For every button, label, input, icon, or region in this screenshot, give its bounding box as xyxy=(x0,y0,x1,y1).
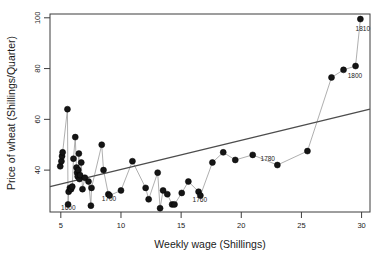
series-data-points xyxy=(57,16,363,211)
data-point-marker xyxy=(143,185,149,191)
y-tick-label: 40 xyxy=(34,166,43,174)
data-point-marker xyxy=(79,186,85,192)
data-point-marker xyxy=(232,157,238,163)
data-point-marker xyxy=(250,152,256,158)
y-axis-title: Price of wheat (Shillings/Quarter) xyxy=(5,36,17,190)
data-point-label: 1810 xyxy=(356,25,371,32)
data-point-marker xyxy=(60,149,66,155)
data-point-marker xyxy=(185,179,191,185)
trend-line xyxy=(50,109,370,186)
data-point-marker xyxy=(76,151,82,157)
y-tick-label: 60 xyxy=(34,115,43,123)
data-point-marker xyxy=(99,142,105,148)
trend-line-segment xyxy=(50,109,370,186)
x-axis-title: Weekly wage (Shillings) xyxy=(154,238,265,250)
data-point-label: 1800 xyxy=(348,72,363,79)
data-point-label: 1700 xyxy=(102,195,117,202)
plot-border xyxy=(50,14,370,212)
wheat-price-vs-wage-chart: 406080100 51015202530 160017001760178018… xyxy=(0,0,385,259)
x-tick-label: 10 xyxy=(117,221,125,230)
data-point-label: 1780 xyxy=(261,155,276,162)
data-point-label: 1760 xyxy=(193,196,208,203)
data-point-marker xyxy=(129,158,135,164)
data-point-marker xyxy=(179,190,185,196)
x-tick-label: 15 xyxy=(177,221,185,230)
x-tick-label: 25 xyxy=(297,221,305,230)
chart-canvas: 406080100 51015202530 160017001760178018… xyxy=(0,0,385,259)
data-point-marker xyxy=(329,74,335,80)
data-point-marker xyxy=(88,203,94,209)
data-point-label: 1600 xyxy=(61,204,76,211)
data-point-marker xyxy=(164,191,170,197)
data-point-marker xyxy=(209,160,215,166)
plot-frame xyxy=(50,14,370,212)
y-tick-label: 100 xyxy=(34,12,43,25)
x-tick-label: 5 xyxy=(59,221,63,230)
data-point-marker xyxy=(146,196,152,202)
data-point-marker xyxy=(72,134,78,140)
data-point-marker xyxy=(341,67,347,73)
data-point-marker xyxy=(101,167,107,173)
data-point-marker xyxy=(220,149,226,155)
y-tick-label: 80 xyxy=(34,64,43,72)
data-point-marker xyxy=(89,185,95,191)
data-point-marker xyxy=(78,160,84,166)
data-point-marker xyxy=(274,162,280,168)
x-tick-label: 30 xyxy=(357,221,365,230)
data-point-marker xyxy=(64,106,70,112)
data-point-marker xyxy=(155,170,161,176)
data-point-marker xyxy=(304,148,310,154)
data-point-marker xyxy=(86,179,92,185)
data-point-marker xyxy=(69,184,75,190)
series-connector-lines xyxy=(60,19,360,208)
data-point-marker xyxy=(357,16,363,22)
series-polyline xyxy=(60,19,360,208)
point-annotations: 160017001760178018001810 xyxy=(61,25,370,212)
data-point-marker xyxy=(118,187,124,193)
x-axis-ticks: 51015202530 xyxy=(59,212,366,230)
y-axis-ticks: 406080100 xyxy=(34,12,51,175)
x-tick-label: 20 xyxy=(237,221,245,230)
data-point-marker xyxy=(157,205,163,211)
data-point-marker xyxy=(172,201,178,207)
data-point-marker xyxy=(353,63,359,69)
data-point-marker xyxy=(70,156,76,162)
